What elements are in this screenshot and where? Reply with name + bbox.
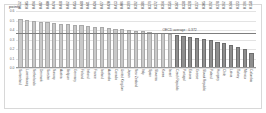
x-label-slot: Czech Republic — [173, 69, 180, 109]
x-label-slot: Japan — [126, 69, 133, 109]
x-label-slot: Australia — [105, 69, 112, 109]
bar-slot: 0.487 — [37, 11, 44, 68]
bar-slot: 0.244 — [228, 11, 235, 68]
bar-slot: 0.399 — [126, 11, 133, 68]
y-axis-tick-label: 0.3 — [10, 38, 15, 42]
bar-value-label: 0.379 — [148, 1, 152, 9]
bar-slot: 0.292 — [207, 11, 214, 68]
bar — [120, 29, 124, 68]
x-label-slot: France — [92, 69, 99, 109]
x-label-slot: Mexico — [241, 69, 248, 109]
bar-slot: 0.305 — [201, 11, 208, 68]
bar-value-label: 0.462 — [66, 1, 70, 9]
bar-slot: 0.480 — [44, 11, 51, 68]
y-axis-tick-label: 0.5 — [10, 19, 15, 23]
bar-slot: 0.494 — [31, 11, 38, 68]
x-axis-tick-label: Sweden — [45, 69, 49, 80]
x-axis-tick-label: United Kingdom — [120, 69, 124, 91]
x-label-slot: Hungary — [214, 69, 221, 109]
bar — [45, 22, 49, 68]
bar — [236, 47, 240, 68]
bar-slot: 0.420 — [105, 11, 112, 68]
x-label-slot: Spain — [146, 69, 153, 109]
bar-slot: 0.512 — [17, 11, 24, 68]
bar-value-label: 0.413 — [114, 1, 118, 9]
bar-value-label: 0.386 — [141, 1, 145, 9]
x-label-slot: Poland — [207, 69, 214, 109]
bar-value-label: 0.292 — [209, 1, 213, 9]
bar — [18, 19, 22, 68]
bar-slot: 0.278 — [214, 11, 221, 68]
x-label-slot: New Zealand — [133, 69, 140, 109]
x-label-slot: United Kingdom — [119, 69, 126, 109]
x-axis-tick-label: Poland — [208, 69, 212, 79]
x-axis-tick-label: Canada — [113, 69, 117, 80]
x-axis-tick-label: Australia — [106, 69, 110, 81]
oecd-average-label: OECD average : 0.372 — [162, 28, 196, 32]
bar-value-label: 0.347 — [175, 1, 179, 9]
x-label-slot: Canada — [112, 69, 119, 109]
x-label-slot: Norway — [51, 69, 58, 109]
bar — [202, 39, 206, 68]
bar-slot: 0.427 — [99, 11, 106, 68]
bar — [161, 33, 165, 68]
bar-value-label: 0.356 — [168, 1, 172, 9]
x-label-slot: Latvia — [228, 69, 235, 109]
bar-slot: 0.386 — [139, 11, 146, 68]
bar-value-label: 0.512 — [18, 1, 22, 9]
bar-slot: 0.462 — [65, 11, 72, 68]
x-axis-tick-label: France — [93, 69, 97, 79]
bar-slot: 0.158 — [248, 11, 255, 68]
bar-slot: 0.328 — [187, 11, 194, 68]
bar — [107, 28, 111, 68]
bar-value-label: 0.455 — [73, 1, 77, 9]
x-axis-tick-label: Slovenia — [154, 69, 158, 81]
bar-value-label: 0.364 — [161, 1, 165, 9]
bar-value-label: 0.328 — [188, 1, 192, 9]
x-label-slot: Netherlands — [31, 69, 38, 109]
x-axis-tick-label: Korea — [161, 69, 165, 77]
y-axis-tick-label: 0.0 — [10, 66, 15, 70]
bar-value-label: 0.305 — [202, 1, 206, 9]
bar-value-label: 0.262 — [222, 1, 226, 9]
bar — [154, 33, 158, 68]
bar — [39, 22, 43, 68]
x-axis-tick-label: Chile — [222, 69, 226, 76]
bar-slot: 0.356 — [167, 11, 174, 68]
bar-slot: 0.448 — [78, 11, 85, 68]
x-label-slot: Iceland — [99, 69, 106, 109]
bar — [181, 36, 185, 68]
x-label-slot: Turkey — [235, 69, 242, 109]
bar-value-label: 0.468 — [59, 1, 63, 9]
bar-value-label: 0.317 — [195, 1, 199, 9]
bar-value-label: 0.372 — [154, 1, 158, 9]
x-axis-tick-label: Iceland — [100, 69, 104, 79]
x-label-slot: Slovenia — [153, 69, 160, 109]
x-axis-tick-label: Spain — [147, 69, 151, 77]
bar — [59, 24, 63, 68]
bar-value-label: 0.244 — [229, 1, 233, 9]
bar-value-label: 0.441 — [86, 1, 90, 9]
x-axis-tick-label: Ireland — [86, 69, 90, 78]
x-axis-tick-label: Belgium — [66, 69, 70, 80]
bar — [66, 24, 70, 68]
x-label-slot: Ireland — [85, 69, 92, 109]
bar-slot: 0.372 — [153, 11, 160, 68]
x-axis-tick-label: Norway — [52, 69, 56, 80]
x-axis-tick-label: Finland — [79, 69, 83, 79]
x-axis-tick-label: Japan — [127, 69, 131, 77]
x-axis-tick-label: Estonia — [188, 69, 192, 79]
x-axis-tick-label: Germany — [72, 69, 76, 82]
x-axis-tick-label: Netherlands — [32, 69, 36, 86]
bar-slot: 0.434 — [92, 11, 99, 68]
x-label-slot: Finland — [78, 69, 85, 109]
bar — [195, 38, 199, 68]
x-label-slot: Sweden — [44, 69, 51, 109]
x-axis-tick-label: Slovak Republic — [202, 69, 206, 91]
bar — [127, 30, 131, 68]
x-label-slot: Chile — [221, 69, 228, 109]
y-axis-tick-label: 0.2 — [10, 47, 15, 51]
x-axis-tick-label: Hungary — [215, 69, 219, 81]
bar-slot: 0.455 — [71, 11, 78, 68]
x-label-slot: Denmark — [37, 69, 44, 109]
